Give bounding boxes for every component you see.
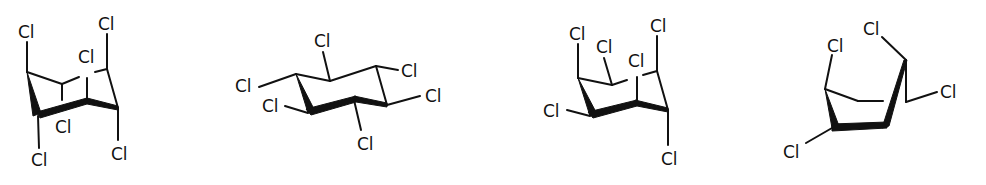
atom-label-cl: Cl [569,24,586,44]
atom-label-cl: Cl [628,51,645,71]
atom-label-cl: Cl [55,117,72,137]
atom-label-cl: Cl [98,14,115,34]
atom-label-cl: Cl [596,37,613,57]
atom-label-cl: Cl [111,144,128,164]
atom-label-cl: Cl [940,82,957,102]
atom-label-cl: Cl [425,86,442,106]
atom-label-cl: Cl [314,31,331,51]
structure-1: Cl Cl Cl Cl Cl Cl [18,14,128,170]
atom-label-cl: Cl [863,19,880,39]
atom-label-cl: Cl [31,150,48,170]
structure-3: Cl Cl Cl Cl Cl Cl [543,16,678,169]
atom-label-cl: Cl [262,96,279,116]
chemical-structures-figure: Cl Cl Cl Cl Cl Cl Cl Cl Cl Cl Cl Cl [0,0,986,185]
structure-4: Cl Cl Cl Cl [783,19,957,162]
atom-label-cl: Cl [357,134,374,154]
atom-label-cl: Cl [18,22,35,42]
atom-label-cl: Cl [78,47,95,67]
atom-label-cl: Cl [401,61,418,81]
atom-label-cl: Cl [543,101,560,121]
atom-label-cl: Cl [235,76,252,96]
atom-label-cl: Cl [661,149,678,169]
atom-label-cl: Cl [650,16,667,36]
structure-2: Cl Cl Cl Cl Cl Cl [235,31,442,154]
atom-label-cl: Cl [827,36,844,56]
atom-label-cl: Cl [783,142,800,162]
